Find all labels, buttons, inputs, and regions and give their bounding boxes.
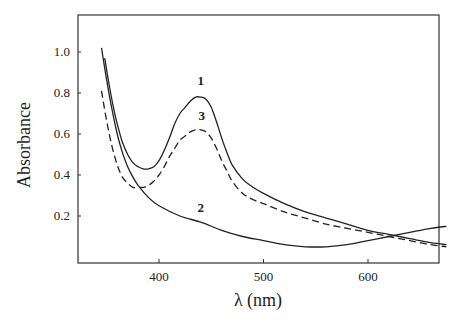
y-tick-label: 0.8 xyxy=(54,85,70,100)
curve-labels: 123 xyxy=(198,73,206,215)
y-tick-label: 0.6 xyxy=(54,126,71,141)
curve-label-2: 2 xyxy=(198,200,205,215)
y-axis-title: Absorbance xyxy=(14,102,34,188)
curve-3 xyxy=(102,91,447,247)
y-axis-ticks: 0.20.40.60.81.0 xyxy=(54,44,81,223)
curve-label-3: 3 xyxy=(199,108,206,123)
x-tick-label: 400 xyxy=(149,269,169,284)
x-tick-label: 600 xyxy=(358,269,378,284)
y-tick-label: 0.4 xyxy=(54,167,71,182)
y-tick-label: 1.0 xyxy=(54,44,70,59)
curve-1 xyxy=(105,58,447,245)
spectra-curves xyxy=(102,48,447,247)
plot-frame xyxy=(78,15,439,263)
y-tick-label: 0.2 xyxy=(54,208,70,223)
x-axis-title: λ (nm) xyxy=(234,290,282,311)
absorbance-chart: 0.20.40.60.81.0 400500600 123 λ (nm) Abs… xyxy=(0,0,454,325)
curve-2 xyxy=(102,48,447,247)
x-tick-label: 500 xyxy=(254,269,274,284)
curve-label-1: 1 xyxy=(198,73,205,88)
